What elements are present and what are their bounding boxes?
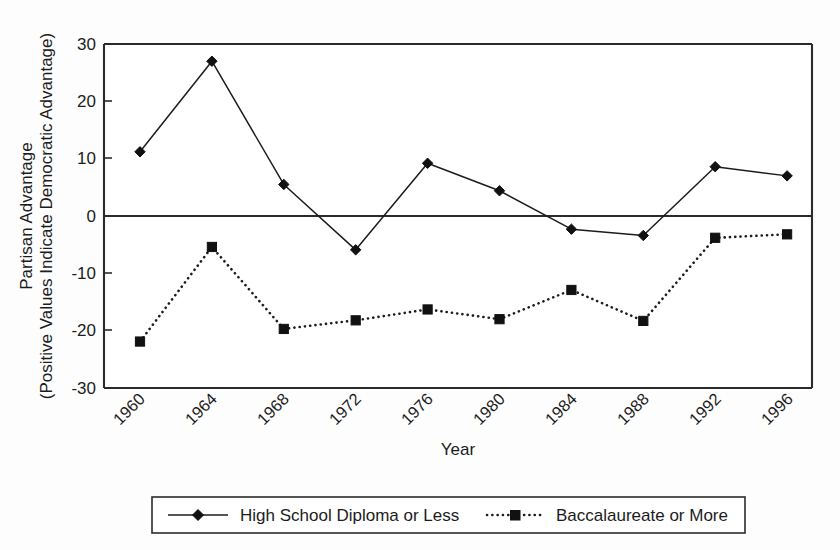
x-tick-label-1988: 1988 — [613, 389, 652, 428]
data-point-1960-bacc — [135, 337, 144, 346]
data-point-1988-bacc — [639, 316, 648, 325]
chart-legend: High School Diploma or Less Baccalaureat… — [152, 497, 745, 533]
y-tick-label-n20: -20 — [71, 321, 96, 340]
x-axis-ticks: 1960 1964 1968 1972 1976 1980 1984 1988 … — [109, 389, 796, 428]
legend-label-baccalaureate: Baccalaureate or More — [556, 506, 728, 525]
data-point-1968-bacc — [279, 324, 288, 333]
x-tick-label-1960: 1960 — [109, 389, 148, 428]
y-tick-label-20: 20 — [77, 92, 96, 111]
y-tick-label-n10: -10 — [71, 264, 96, 283]
x-tick-label-1972: 1972 — [325, 389, 364, 428]
x-tick-label-1996: 1996 — [757, 389, 796, 428]
x-tick-label-1984: 1984 — [541, 389, 580, 428]
data-point-1980-bacc — [495, 315, 504, 324]
partisan-advantage-line-chart: 30 20 10 0 -10 -20 -30 Partisan Advantag… — [0, 0, 840, 550]
y-axis-title-line1: Partisan Advantage — [17, 142, 36, 289]
x-tick-label-1992: 1992 — [685, 389, 724, 428]
legend-square-icon — [511, 511, 521, 521]
y-tick-label-0: 0 — [87, 207, 96, 226]
y-tick-label-n30: -30 — [71, 379, 96, 398]
y-tick-label-10: 10 — [77, 149, 96, 168]
chart-figure: 30 20 10 0 -10 -20 -30 Partisan Advantag… — [0, 0, 840, 550]
data-point-1984-bacc — [567, 285, 576, 294]
data-point-1964-bacc — [207, 242, 216, 251]
x-axis-title: Year — [441, 440, 476, 459]
x-tick-label-1968: 1968 — [253, 389, 292, 428]
legend-label-high-school: High School Diploma or Less — [240, 506, 459, 525]
data-point-1976-bacc — [423, 305, 432, 314]
y-axis-title: Partisan Advantage (Positive Values Indi… — [17, 33, 56, 399]
x-tick-label-1980: 1980 — [469, 389, 508, 428]
x-tick-label-1964: 1964 — [181, 389, 220, 428]
y-axis-title-line2: (Positive Values Indicate Democratic Adv… — [37, 33, 56, 399]
y-tick-label-30: 30 — [77, 35, 96, 54]
data-point-1996-bacc — [783, 230, 792, 239]
x-tick-label-1976: 1976 — [397, 389, 436, 428]
data-point-1992-bacc — [711, 233, 720, 242]
data-point-1972-bacc — [351, 316, 360, 325]
